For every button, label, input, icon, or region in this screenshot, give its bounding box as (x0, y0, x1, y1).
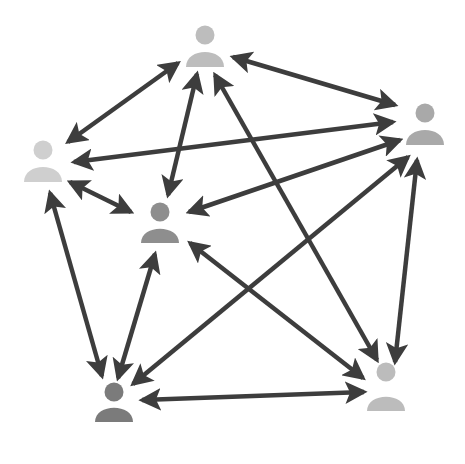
person-head (105, 383, 124, 402)
bidirectional-arrow-center-bottom-left (118, 254, 155, 378)
bidirectional-arrow-right-center (189, 140, 400, 212)
person-body (141, 229, 179, 243)
person-body (406, 130, 444, 145)
person-icon-center (141, 203, 179, 244)
person-body (186, 52, 224, 67)
bidirectional-arrow-left-bottom-left (50, 193, 102, 376)
bidirectional-arrow-bottom-left-bottom-right (142, 392, 364, 400)
network-diagram (0, 0, 465, 464)
edges-group (50, 57, 417, 400)
person-head (151, 203, 170, 222)
person-icon-left (24, 141, 62, 183)
person-icon-bottom-left (95, 383, 133, 423)
person-body (367, 397, 405, 411)
person-icon-right (406, 104, 444, 146)
person-body (95, 408, 133, 422)
diagram-canvas (0, 0, 465, 464)
person-body (24, 167, 62, 182)
bidirectional-arrow-left-right (74, 122, 393, 162)
person-head (34, 141, 53, 160)
person-icon-top (186, 26, 224, 68)
person-head (377, 363, 396, 382)
person-icon-bottom-right (367, 363, 405, 412)
bidirectional-arrow-right-bottom-right (395, 160, 417, 362)
bidirectional-arrow-left-center (70, 182, 131, 212)
person-head (196, 26, 215, 45)
person-head (416, 104, 435, 123)
bidirectional-arrow-top-bottom-right (215, 75, 377, 360)
bidirectional-arrow-right-bottom-left (133, 157, 408, 384)
nodes-group (24, 26, 444, 423)
bidirectional-arrow-top-right (233, 57, 395, 105)
bidirectional-arrow-top-left (68, 63, 178, 142)
bidirectional-arrow-top-center (168, 74, 197, 195)
